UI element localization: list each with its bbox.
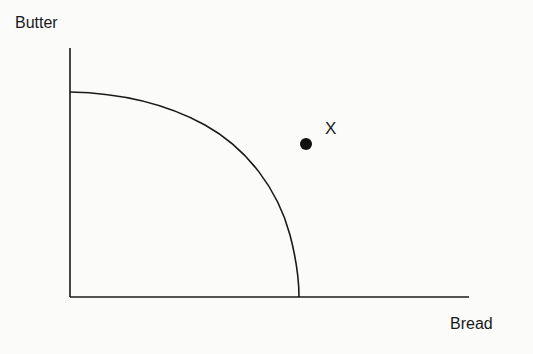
y-axis-label: Butter bbox=[15, 15, 58, 31]
point-x-dot bbox=[300, 138, 312, 150]
diagram-canvas bbox=[0, 0, 533, 354]
point-x-label: X bbox=[325, 120, 336, 137]
x-axis-label: Bread bbox=[450, 316, 493, 332]
production-possibilities-curve bbox=[70, 92, 299, 297]
